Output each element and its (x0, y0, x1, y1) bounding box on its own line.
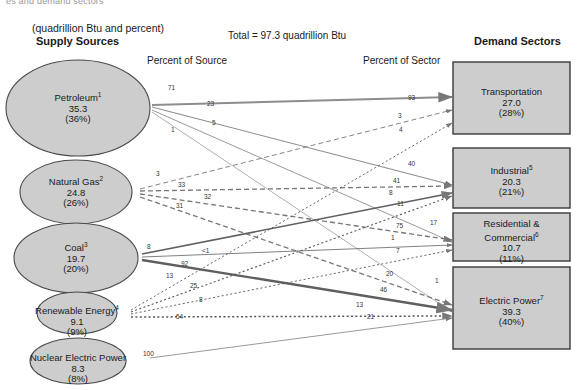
flow-value-transportation-2: 3 (398, 112, 402, 119)
flow-value-transportation-3: 4 (399, 126, 403, 133)
flow-value-coal-2: <1 (202, 247, 209, 254)
flow-value-renewable-4: 54 (176, 313, 183, 320)
flow-value-residential-2: 75 (396, 222, 403, 229)
flow-value-natural-gas-1: 3 (156, 170, 160, 177)
flow-value-renewable-1: 13 (166, 272, 173, 279)
flow-value-natural-gas-2: 33 (178, 181, 185, 188)
flow-value-coal-3: 92 (181, 260, 188, 267)
flow-value-residential-4: 7 (396, 247, 400, 254)
flow-value-renewable-2: 25 (190, 282, 197, 289)
flow-value-residential-1: 17 (430, 219, 437, 226)
flow-value-residential-3: 1 (391, 234, 395, 241)
flow-value-coal-1: 8 (147, 243, 151, 250)
node-renewable-energy[interactable] (37, 292, 117, 334)
flow-value-electric-5: 21 (367, 313, 374, 320)
flow-value-nuclear-1: 100 (143, 350, 154, 357)
node-petroleum[interactable] (6, 60, 150, 156)
energy-flow-diagram: es and demand sectors (quadrillion Btu a… (0, 0, 581, 390)
flow-value-industrial-3: 8 (389, 189, 393, 196)
node-natural-gas[interactable] (20, 160, 132, 224)
flow-value-petroleum-3: 5 (212, 119, 216, 126)
nodes-layer (0, 0, 581, 390)
flow-value-electric-4: 13 (356, 301, 363, 308)
node-residential-commercial[interactable] (453, 213, 570, 261)
flow-value-natural-gas-3: 32 (204, 193, 211, 200)
flow-value-transportation-1: 93 (408, 94, 415, 101)
flow-value-electric-1: 1 (435, 277, 439, 284)
flow-value-petroleum-2: 23 (207, 100, 214, 107)
flow-value-industrial-1: 40 (408, 160, 415, 167)
flow-value-industrial-4: 11 (397, 200, 404, 207)
flow-value-natural-gas-4: 31 (176, 202, 183, 209)
flow-value-electric-3: 46 (380, 286, 387, 293)
node-electric-power[interactable] (453, 267, 570, 349)
flow-value-petroleum-4: 1 (171, 126, 175, 133)
node-transportation[interactable] (453, 62, 570, 134)
flow-value-industrial-2: 41 (393, 177, 400, 184)
node-coal[interactable] (14, 223, 138, 293)
node-industrial[interactable] (453, 148, 570, 208)
flow-value-petroleum-1: 71 (168, 84, 175, 91)
flow-value-electric-2: 20 (386, 270, 393, 277)
node-nuclear-electric-power[interactable] (30, 338, 126, 384)
flow-value-renewable-3: 8 (199, 296, 203, 303)
